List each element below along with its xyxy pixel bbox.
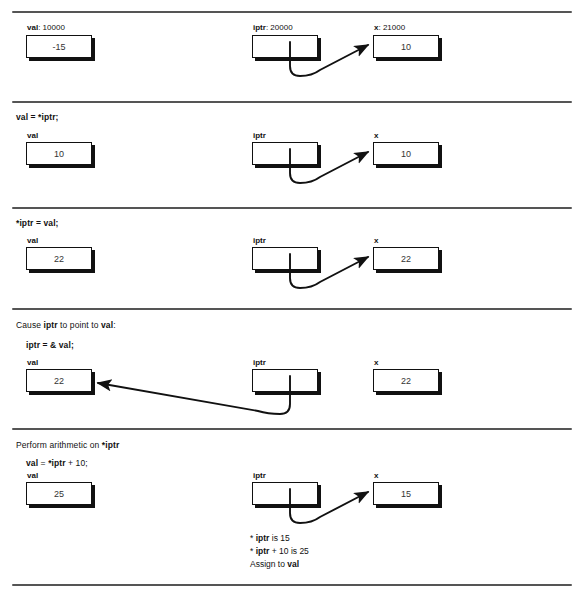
val-label-4: val xyxy=(27,358,38,367)
iptr-address-1: 20000 xyxy=(270,23,292,32)
x-box-value-2: 10 xyxy=(374,149,438,159)
statement-5-c: *iptr xyxy=(48,458,66,468)
val-box-value-1: -15 xyxy=(27,42,91,52)
iptr-box-2 xyxy=(252,142,318,165)
iptr-name-1: iptr xyxy=(253,23,266,32)
note-line-1: * iptr is 15 xyxy=(250,533,290,543)
note-2-post: + 10 is 25 xyxy=(269,546,308,556)
iptr-label-5: iptr xyxy=(253,471,266,480)
heading-4: Cause iptr to point to val: xyxy=(16,320,116,330)
val-label-2: val xyxy=(27,131,38,140)
statement-5-a: val xyxy=(26,458,38,468)
val-box-1: -15 xyxy=(26,35,92,58)
section-divider-bottom xyxy=(12,584,572,586)
note-line-3: Assign to val xyxy=(250,559,299,569)
val-box-value-3: 22 xyxy=(27,254,91,264)
heading-4-prefix: Cause xyxy=(16,320,44,330)
val-box-value-2: 10 xyxy=(27,149,91,159)
x-box-value-1: 10 xyxy=(374,42,438,52)
note-3-pre: Assign to xyxy=(250,559,287,569)
note-1-bold: iptr xyxy=(256,533,270,543)
iptr-box-3 xyxy=(252,247,318,270)
iptr-label-4: iptr xyxy=(253,358,266,367)
x-box-3: 22 xyxy=(373,247,439,270)
statement-2: val = *iptr; xyxy=(16,112,59,122)
val-label-5: val xyxy=(27,471,38,480)
val-label-3: val xyxy=(27,236,38,245)
iptr-label-3: iptr xyxy=(253,236,266,245)
x-box-value-3: 22 xyxy=(374,254,438,264)
x-address-1: 21000 xyxy=(383,23,405,32)
heading-5: Perform arithmetic on *iptr xyxy=(16,440,119,450)
iptr-box-1 xyxy=(252,35,318,58)
x-box-value-4: 22 xyxy=(374,376,438,386)
iptr-box-5 xyxy=(252,482,318,505)
heading-5-bold1: *iptr xyxy=(102,440,120,450)
note-line-2: * iptr + 10 is 25 xyxy=(250,546,309,556)
note-3-bold: val xyxy=(287,559,299,569)
val-box-value-4: 22 xyxy=(27,376,91,386)
statement-3: *iptr = val; xyxy=(16,218,59,228)
val-address-1: 10000 xyxy=(43,23,65,32)
x-box-2: 10 xyxy=(373,142,439,165)
statement-5-d: + 10; xyxy=(66,458,88,468)
section-divider-top xyxy=(12,11,572,13)
x-label-1: x: 21000 xyxy=(374,23,405,32)
heading-4-bold2: val xyxy=(101,320,113,330)
statement-4: iptr = & val; xyxy=(26,340,74,350)
heading-4-bold1: iptr xyxy=(44,320,58,330)
iptr-label-1: iptr: 20000 xyxy=(253,23,293,32)
section-divider-4 xyxy=(12,428,572,430)
heading-5-prefix: Perform arithmetic on xyxy=(16,440,102,450)
statement-5-b: = xyxy=(38,458,48,468)
val-label-1: val: 10000 xyxy=(27,23,65,32)
iptr-box-4 xyxy=(252,369,318,392)
iptr-label-2: iptr xyxy=(253,131,266,140)
val-box-5: 25 xyxy=(26,482,92,505)
x-box-value-5: 15 xyxy=(374,489,438,499)
heading-4-suffix: : xyxy=(113,320,115,330)
section-divider-1 xyxy=(12,101,572,103)
val-box-3: 22 xyxy=(26,247,92,270)
section-divider-3 xyxy=(12,308,572,310)
val-box-2: 10 xyxy=(26,142,92,165)
val-box-value-5: 25 xyxy=(27,489,91,499)
statement-5: val = *iptr + 10; xyxy=(26,458,88,468)
x-label-5: x xyxy=(374,471,378,480)
note-2-bold: iptr xyxy=(256,546,270,556)
val-name-1: val xyxy=(27,23,38,32)
x-label-3: x xyxy=(374,236,378,245)
x-label-4: x xyxy=(374,358,378,367)
diagram-page: val: 10000 -15 iptr: 20000 x: 21000 10 v… xyxy=(0,0,581,594)
section-divider-2 xyxy=(12,207,572,209)
note-1-post: is 15 xyxy=(269,533,289,543)
x-box-1: 10 xyxy=(373,35,439,58)
val-box-4: 22 xyxy=(26,369,92,392)
heading-4-mid: to point to xyxy=(58,320,101,330)
x-label-2: x xyxy=(374,131,378,140)
x-box-4: 22 xyxy=(373,369,439,392)
x-box-5: 15 xyxy=(373,482,439,505)
